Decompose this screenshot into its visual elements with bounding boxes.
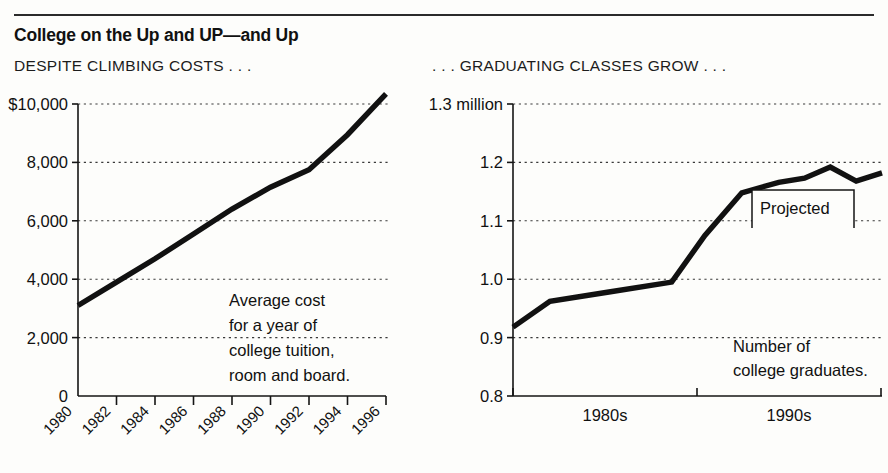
left-series-line — [78, 94, 386, 306]
left-x-tick-labels: 198019821984198619881990199219941996 — [40, 402, 384, 438]
y-tick-label: 1.0 — [480, 270, 503, 288]
chart-subtitle-right: . . . GRADUATING CLASSES GROW . . . — [432, 57, 726, 75]
annotation-line: college tuition, — [229, 341, 335, 359]
y-tick-label: 8,000 — [27, 153, 68, 171]
annotation-line: for a year of — [229, 316, 317, 334]
right-x-axis — [513, 388, 882, 396]
infographic-page: College on the Up and UP—and Up DESPITE … — [0, 0, 888, 473]
y-tick-label: 2,000 — [27, 329, 68, 347]
y-tick-label: 0.9 — [480, 329, 503, 347]
x-tick-label: 1980s — [583, 406, 628, 424]
x-tick-label: 1994 — [309, 402, 345, 438]
projected-label: Projected — [760, 199, 830, 217]
y-tick-label: 1.2 — [480, 153, 503, 171]
y-tick-label: 1.3 million — [429, 95, 503, 113]
annotation-line: college graduates. — [733, 361, 868, 379]
annotation-line: room and board. — [229, 366, 350, 384]
y-tick-label: 6,000 — [27, 212, 68, 230]
x-tick-label: 1982 — [78, 402, 114, 438]
x-tick-label: 1990 — [232, 402, 268, 438]
right-series-line — [513, 167, 882, 327]
annotation-line: Number of — [733, 337, 810, 355]
y-tick-label: 0.8 — [480, 387, 503, 405]
right-x-tick-labels: 1980s1990s — [583, 406, 812, 424]
left-y-tick-labels: 02,0004,0006,0008,000$10,000 — [8, 95, 68, 405]
x-tick-label: 1984 — [117, 402, 153, 438]
right-y-tick-labels: 0.80.91.01.11.21.3 million — [429, 95, 503, 405]
right-gridlines — [507, 104, 884, 396]
projected-callout: Projected — [752, 190, 854, 228]
x-tick-label: 1986 — [155, 402, 191, 438]
left-x-ticks — [117, 396, 387, 405]
chart-college-cost: 02,0004,0006,0008,000$10,000 19801982198… — [0, 0, 430, 473]
y-tick-label: 0 — [59, 387, 68, 405]
right-annotation: Number ofcollege graduates. — [733, 337, 868, 379]
x-tick-label: 1996 — [348, 402, 384, 438]
x-tick-label: 1990s — [767, 406, 812, 424]
y-tick-label: $10,000 — [8, 95, 68, 113]
x-tick-label: 1988 — [194, 402, 230, 438]
x-tick-label: 1992 — [271, 402, 307, 438]
y-tick-label: 1.1 — [480, 212, 503, 230]
y-tick-label: 4,000 — [27, 270, 68, 288]
annotation-line: Average cost — [229, 291, 325, 309]
x-tick-label: 1980 — [40, 402, 76, 438]
